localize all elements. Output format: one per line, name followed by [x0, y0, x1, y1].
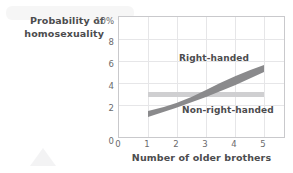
series-label-right-handed: Right-handed [179, 53, 249, 63]
x-tick-label-4: 4 [224, 140, 244, 149]
y-tick-label-2: 2 [82, 104, 114, 113]
plot-area: Right-handed Non-right-handed [118, 16, 285, 138]
x-tick-label-1: 1 [137, 140, 157, 149]
y-tick-label-4: 4 [82, 82, 114, 91]
series-band-right-handed [119, 17, 284, 137]
y-tick-label-8: 8 [82, 38, 114, 47]
right-handed-band-svg [119, 17, 284, 137]
x-axis-title: Number of older brothers [118, 152, 285, 163]
chart-figure: Probability of homosexuality 10% 8 6 4 2… [0, 0, 293, 173]
y-tick-label-10: 10% [82, 17, 114, 26]
x-tick-label-3: 3 [195, 140, 215, 149]
series-label-non-right-handed: Non-right-handed [182, 105, 274, 115]
y-tick-label-6: 6 [82, 60, 114, 69]
x-tick-label-2: 2 [166, 140, 186, 149]
watermark [30, 148, 56, 166]
x-tick-label-5: 5 [253, 140, 273, 149]
x-tick-label-0: 0 [108, 140, 128, 149]
